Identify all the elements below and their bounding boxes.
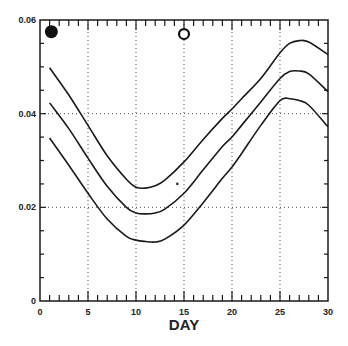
x-tick-label: 25 xyxy=(275,307,285,317)
line-chart: 05101520253000.020.040.06 DAY xyxy=(0,0,348,346)
x-tick-label: 10 xyxy=(131,307,141,317)
y-tick-label: 0.06 xyxy=(18,15,36,25)
curve-upper xyxy=(50,40,328,188)
y-tick-label: 0.02 xyxy=(18,202,36,212)
curve-lower xyxy=(50,98,328,242)
x-tick-label: 20 xyxy=(227,307,237,317)
y-tick-label: 0.04 xyxy=(18,109,36,119)
data-curves xyxy=(50,40,328,242)
dot-marker xyxy=(176,183,179,186)
x-axis-title: DAY xyxy=(169,316,199,333)
x-tick-label: 5 xyxy=(85,307,90,317)
curve-middle xyxy=(50,71,328,214)
axis-ticks: 05101520253000.020.040.06 xyxy=(18,15,333,317)
grid-lines xyxy=(40,20,328,301)
x-tick-label: 30 xyxy=(323,307,333,317)
filled-circle-marker xyxy=(45,25,58,38)
x-tick-label: 0 xyxy=(37,307,42,317)
y-tick-label: 0 xyxy=(31,296,36,306)
open-circle-marker xyxy=(179,29,189,39)
